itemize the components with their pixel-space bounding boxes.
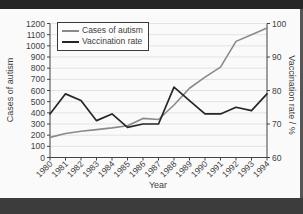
autism-line-swatch (62, 30, 79, 32)
left-axis-tick-label: 100 (31, 141, 45, 151)
right-axis-tick-label: 70 (272, 119, 282, 129)
x-axis-title: Year (149, 180, 167, 190)
screenshot-root: 0100200300400500600700800900100011001200… (0, 0, 303, 214)
x-axis-tick-label: 1994 (251, 159, 272, 180)
right-axis-tick-label: 80 (272, 86, 282, 96)
right-axis-tick-label: 100 (272, 19, 286, 29)
left-axis-tick-label: 800 (31, 63, 45, 73)
left-axis-tick-label: 900 (31, 52, 45, 62)
left-axis-title: Cases of autism (5, 58, 15, 123)
right-axis-title: Vaccination rate / % (287, 55, 297, 134)
left-axis-tick-label: 500 (31, 97, 45, 107)
chart-legend: Cases of autism Vaccination rate (57, 22, 149, 51)
left-axis-tick-label: 1100 (27, 30, 46, 40)
top-frame-band (0, 0, 303, 9)
legend-label-cases-of-autism: Cases of autism (82, 25, 143, 36)
right-axis-tick-label: 90 (272, 52, 282, 62)
legend-label-vaccination-rate: Vaccination rate (82, 36, 142, 47)
left-axis-tick-label: 1200 (26, 19, 45, 29)
legend-item-vaccination-rate: Vaccination rate (62, 36, 143, 47)
left-axis-tick-label: 400 (31, 108, 45, 118)
legend-item-cases-of-autism: Cases of autism (62, 25, 143, 36)
left-axis-tick-label: 600 (31, 86, 45, 96)
left-axis-tick-label: 700 (31, 74, 45, 84)
left-axis-tick-label: 1000 (26, 41, 45, 51)
vaccination-rate-line (50, 87, 267, 127)
right-edge-strip (300, 9, 303, 198)
right-axis-tick-label: 60 (272, 153, 282, 163)
vaccination-line-swatch (62, 41, 79, 43)
bottom-frame-band (0, 198, 303, 214)
left-axis-tick-label: 300 (31, 119, 45, 129)
left-axis-tick-label: 200 (31, 130, 45, 140)
